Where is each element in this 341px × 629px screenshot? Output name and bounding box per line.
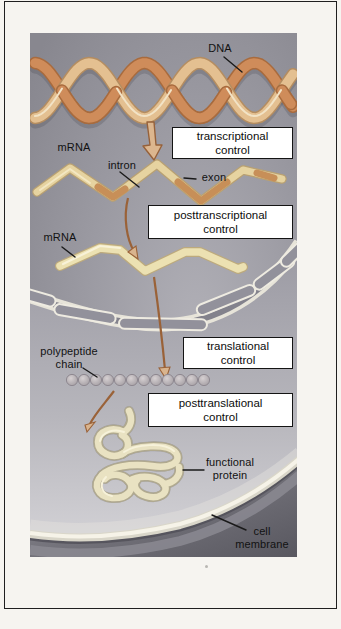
intron-label: intron [100, 159, 144, 172]
posttranslational-control-line1: posttranslational [179, 396, 263, 410]
posttranscriptional-control-line2: control [203, 222, 238, 236]
transcriptional-control-box: transcriptional control [172, 127, 293, 159]
posttranscriptional-control-line1: posttranscriptional [174, 208, 267, 222]
cell-membrane-label-line1: cell [254, 525, 271, 537]
posttranslational-control-box: posttranslational control [148, 393, 293, 427]
translational-control-line1: translational [207, 339, 269, 353]
functional-protein-label: functional protein [198, 456, 262, 482]
cell-membrane-label: cell membrane [228, 525, 296, 551]
intron-segment [257, 173, 274, 178]
dna-label: DNA [200, 42, 240, 55]
polypeptide-label-line2: chain [56, 358, 83, 370]
posttranscriptional-control-box: posttranscriptional control [148, 205, 293, 239]
polypeptide-label-line1: polypeptide [40, 345, 97, 357]
transcriptional-control-line2: control [215, 143, 250, 157]
polypeptide-chain-label: polypeptide chain [36, 345, 102, 371]
translational-control-box: translational control [183, 337, 293, 369]
scanned-figure-page: DNA mRNA intron exon mRNA polypeptide ch… [0, 0, 341, 629]
cell-membrane-label-line2: membrane [235, 538, 288, 550]
mrna-primary-label: mRNA [52, 141, 96, 154]
mrna-mature-label: mRNA [38, 231, 82, 244]
gene-expression-illustration: DNA mRNA intron exon mRNA polypeptide ch… [30, 33, 297, 557]
exon-label: exon [193, 171, 235, 184]
posttranslational-control-line2: control [203, 410, 238, 424]
translational-control-line2: control [221, 353, 256, 367]
functional-protein-label-line1: functional [206, 456, 254, 468]
transcriptional-control-line1: transcriptional [197, 129, 269, 143]
functional-protein-label-line2: protein [213, 469, 247, 481]
scan-speck [205, 565, 208, 568]
